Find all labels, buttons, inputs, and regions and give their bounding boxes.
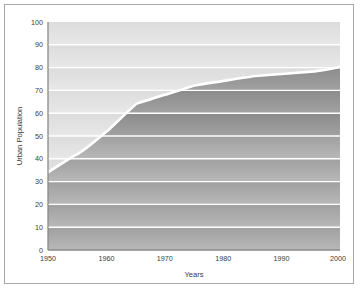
y-tick-20: 20 [35, 200, 43, 209]
y-tick-labels: 100 90 80 70 60 50 40 30 20 10 0 [31, 18, 43, 255]
x-tick-2000: 2000 [330, 254, 346, 263]
y-tick-70: 70 [35, 86, 43, 95]
x-tick-1960: 1960 [98, 254, 114, 263]
y-axis-title: Urban Population [15, 107, 24, 166]
y-tick-100: 100 [31, 18, 43, 27]
x-tick-labels: 1950 1960 1970 1980 1990 2000 [40, 254, 346, 263]
y-tick-50: 50 [35, 132, 43, 141]
x-tick-1980: 1980 [215, 254, 231, 263]
y-tick-90: 90 [35, 40, 43, 49]
x-tick-1950: 1950 [40, 254, 56, 263]
x-tick-1990: 1990 [274, 254, 290, 263]
y-tick-30: 30 [35, 177, 43, 186]
x-axis-title: Years [184, 270, 203, 279]
urban-population-area-chart: 100 90 80 70 60 50 40 30 20 10 0 1950 19… [0, 0, 360, 295]
y-tick-40: 40 [35, 154, 43, 163]
x-tick-1970: 1970 [157, 254, 173, 263]
y-tick-60: 60 [35, 109, 43, 118]
chart-figure: 100 90 80 70 60 50 40 30 20 10 0 1950 19… [0, 0, 360, 295]
y-tick-10: 10 [35, 223, 43, 232]
y-tick-80: 80 [35, 63, 43, 72]
